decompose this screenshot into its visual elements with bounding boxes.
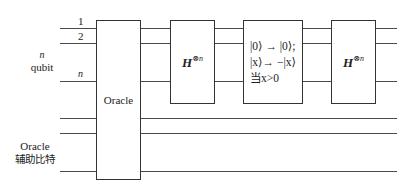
hadamard-2-base: H <box>343 55 353 70</box>
hadamard-2-superscript: ⊗n <box>353 54 364 63</box>
cond-line-1: |0⟩ → |0⟩; <box>250 38 296 54</box>
cond-line-3: 当x>0 <box>250 70 279 86</box>
wire-label-1: 1 <box>78 16 84 27</box>
qubit-count-n: n <box>22 48 62 61</box>
ancilla-group-label: Oracle 辅助比特 <box>12 140 58 166</box>
hadamard-gate-1-label: H⊗n <box>182 54 203 71</box>
oracle-gate-label: Oracle <box>104 94 133 106</box>
wire-label-2: 2 <box>78 31 84 42</box>
hadamard-gate-2: H⊗n <box>331 20 376 104</box>
ancilla-label-oracle: Oracle <box>12 140 58 153</box>
hadamard-gate-2-label: H⊗n <box>343 54 364 71</box>
oracle-gate: Oracle <box>96 20 141 180</box>
qubit-group-label: n qubit <box>22 48 62 74</box>
hadamard-1-base: H <box>182 55 192 70</box>
cond-line-2: |x⟩→ −|x⟩ <box>250 54 296 70</box>
hadamard-1-superscript: ⊗n <box>192 54 203 63</box>
wire-label-n: n <box>78 69 83 79</box>
conditional-phase-gate: |0⟩ → |0⟩; |x⟩→ −|x⟩ 当x>0 <box>243 20 303 104</box>
ancilla-label-aux-bits: 辅助比特 <box>12 153 58 166</box>
hadamard-gate-1: H⊗n <box>170 20 215 104</box>
qubit-text: qubit <box>22 61 62 74</box>
